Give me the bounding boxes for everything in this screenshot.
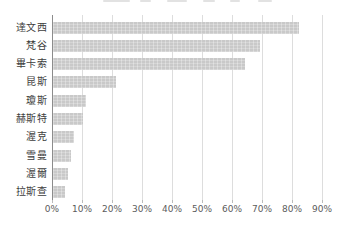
- x-tick-mark: [262, 200, 263, 203]
- cropped-title-remnant: [230, 0, 240, 2]
- bar-赫斯特: [53, 113, 83, 125]
- category-label: 梵谷: [0, 40, 47, 52]
- gridline: [292, 15, 293, 200]
- bar-畢卡索: [53, 58, 245, 70]
- category-label: 畢卡索: [0, 58, 47, 70]
- x-tick-label: 50%: [185, 204, 219, 215]
- gridline: [322, 15, 323, 200]
- bar-拉斯查: [53, 186, 65, 198]
- bar-瓊斯: [53, 95, 86, 107]
- gridline: [262, 15, 263, 200]
- bar-昆斯: [53, 76, 116, 88]
- x-tick-label: 10%: [65, 204, 99, 215]
- cropped-title-remnant: [140, 0, 151, 2]
- category-label: 拉斯查: [0, 186, 47, 198]
- y-axis-labels: 達文西梵谷畢卡索昆斯瓊斯赫斯特渥克雪曼渥爾拉斯查: [0, 15, 47, 200]
- bar-梵谷: [53, 40, 260, 52]
- x-tick-label: 30%: [125, 204, 159, 215]
- x-tick-mark: [142, 200, 143, 203]
- category-label: 渥克: [0, 131, 47, 143]
- bar-雪曼: [53, 150, 71, 162]
- x-tick-mark: [202, 200, 203, 203]
- x-axis: 0%10%20%30%40%50%60%70%80%90%: [52, 200, 328, 222]
- cropped-title-remnant: [167, 0, 187, 2]
- cropped-title-remnant: [103, 0, 130, 2]
- x-tick-label: 90%: [305, 204, 339, 215]
- category-label: 瓊斯: [0, 95, 47, 107]
- category-label: 赫斯特: [0, 113, 47, 125]
- x-tick-label: 60%: [215, 204, 249, 215]
- category-label: 昆斯: [0, 76, 47, 88]
- cropped-title-remnant: [258, 0, 272, 2]
- x-tick-mark: [112, 200, 113, 203]
- bar-渥爾: [53, 168, 68, 180]
- plot-area: [52, 15, 322, 200]
- x-tick-mark: [232, 200, 233, 203]
- bar-chart: 達文西梵谷畢卡索昆斯瓊斯赫斯特渥克雪曼渥爾拉斯查 0%10%20%30%40%5…: [0, 0, 345, 225]
- x-tick-label: 20%: [95, 204, 129, 215]
- bar-達文西: [53, 22, 299, 34]
- x-tick-label: 80%: [275, 204, 309, 215]
- x-tick-mark: [82, 200, 83, 203]
- bar-渥克: [53, 131, 74, 143]
- category-label: 雪曼: [0, 150, 47, 162]
- x-tick-mark: [322, 200, 323, 203]
- x-tick-label: 40%: [155, 204, 189, 215]
- category-label: 達文西: [0, 22, 47, 34]
- category-label: 渥爾: [0, 168, 47, 180]
- x-tick-mark: [292, 200, 293, 203]
- x-tick-label: 70%: [245, 204, 279, 215]
- x-tick-label: 0%: [35, 204, 69, 215]
- x-tick-mark: [172, 200, 173, 203]
- x-tick-mark: [52, 200, 53, 203]
- cropped-title-remnant: [203, 0, 215, 2]
